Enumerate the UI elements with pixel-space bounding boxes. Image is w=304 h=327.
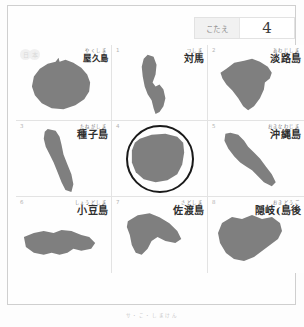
island-name-tanegashima: たねがしま 種子島 (77, 125, 108, 140)
kanji: 種子島 (77, 130, 108, 140)
island-name-shodoshima: しょうどしま 小豆島 (75, 201, 108, 216)
kanji: 沖縄島 (268, 130, 301, 140)
cell-number: 5 (212, 124, 216, 130)
island-cell-yakushima[interactable]: 日 本 やくしま 屋久島 (16, 45, 112, 121)
island-cell-awajishima[interactable]: 2 あわじしま 淡路島 (208, 45, 304, 121)
island-grid: 日 本 やくしま 屋久島 1 つしま 対馬 (16, 45, 304, 273)
island-cell-selected[interactable]: 4 (112, 121, 208, 197)
island-name-sadogashima: さどしま 佐渡島 (173, 201, 204, 216)
cell-number: 8 (212, 200, 216, 206)
kanji: 隠岐(島後 (255, 206, 301, 216)
cell-number: 6 (20, 200, 24, 206)
cell-number: 7 (116, 200, 120, 206)
cell-number: 2 (212, 48, 216, 54)
kanji: 小豆島 (75, 206, 108, 216)
answer-label: こたえ (195, 18, 239, 38)
badge-char-2: 本 (29, 49, 40, 60)
island-name-okinawajima: おきなわじま 沖縄島 (268, 125, 301, 140)
answer-input[interactable]: 4 (239, 18, 294, 38)
worksheet-frame: こたえ 4 日 本 やくしま 屋久島 (7, 5, 296, 305)
island-name-oki-dogo: おきどうご 隠岐(島後 (255, 201, 301, 216)
island-cell-oki-dogo[interactable]: 8 おきどうご 隠岐(島後 (208, 197, 304, 273)
island-name-tsushima: つしま 対馬 (184, 49, 204, 64)
answer-bar[interactable]: こたえ 4 (194, 17, 295, 39)
island-cell-shodoshima[interactable]: 6 しょうどしま 小豆島 (16, 197, 112, 273)
island-cell-sadogashima[interactable]: 7 さどしま 佐渡島 (112, 197, 208, 273)
island-cell-tanegashima[interactable]: 3 たねがしま 種子島 (16, 121, 112, 197)
cell-number: 1 (116, 48, 120, 54)
cell-number: 4 (116, 124, 120, 130)
worksheet-page: こたえ 4 日 本 やくしま 屋久島 (0, 0, 304, 327)
footer-caption: サ・こ・しまけん (0, 312, 304, 318)
island-name-yakushima: やくしま 屋久島 (83, 49, 108, 62)
kanji: 対馬 (184, 54, 204, 64)
japan-badge-icon: 日 本 (20, 48, 46, 60)
kanji: 屋久島 (83, 54, 108, 62)
island-silhouette-selected (112, 121, 207, 196)
cell-number: 3 (20, 124, 24, 130)
island-cell-okinawajima[interactable]: 5 おきなわじま 沖縄島 (208, 121, 304, 197)
kanji: 佐渡島 (173, 206, 204, 216)
island-name-awajishima: あわじしま 淡路島 (270, 49, 301, 64)
island-cell-tsushima[interactable]: 1 つしま 対馬 (112, 45, 208, 121)
answer-value: 4 (262, 19, 272, 37)
kanji: 淡路島 (270, 54, 301, 64)
